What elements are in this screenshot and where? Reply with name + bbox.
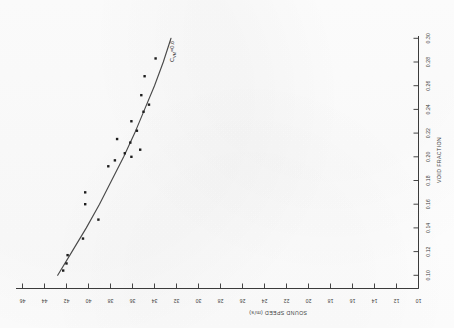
data-point (97, 218, 99, 220)
axes-group (16, 36, 419, 289)
sound-speed-tick-label: 12 (394, 298, 400, 304)
data-point (116, 138, 118, 140)
void-fraction-ticks (414, 38, 419, 275)
data-point (62, 269, 64, 271)
void-fraction-tick-label: 0.26 (425, 80, 431, 90)
data-point (114, 159, 116, 161)
data-point (84, 191, 86, 193)
sound-speed-tick-label: 30 (196, 298, 202, 304)
sound-speed-tick-label: 16 (350, 298, 356, 304)
sound-speed-tick-label: 14 (372, 298, 378, 304)
sound-speed-tick-label: 10 (416, 298, 422, 304)
data-point (84, 203, 86, 205)
sound-speed-tick-label: 32 (174, 298, 180, 304)
sound-speed-tick-label: 36 (130, 298, 136, 304)
sound-speed-tick-label: 40 (86, 298, 92, 304)
data-point (140, 94, 142, 96)
data-point (129, 141, 131, 143)
sound-speed-tick-label: 20 (306, 298, 312, 304)
figure-canvas: 46 44 42 40 38 36 34 32 30 28 26 24 22 2… (0, 0, 454, 328)
void-fraction-tick-label: 0.28 (425, 57, 431, 67)
data-point (148, 103, 150, 105)
data-point (136, 130, 138, 132)
void-fraction-tick-label: 0.24 (425, 104, 431, 114)
void-fraction-tick-label: 0.30 (425, 33, 431, 43)
void-fraction-tick-label: 0.22 (425, 128, 431, 138)
data-point (124, 152, 126, 154)
data-point (143, 75, 145, 77)
sound-speed-tick-label: 42 (64, 298, 70, 304)
curve-label-group: CVM=0.6 (169, 41, 177, 62)
curve-label: CVM=0.6 (169, 41, 177, 62)
void-fraction-tick-label: 0.16 (425, 199, 431, 209)
void-fraction-tick-label: 0.10 (425, 270, 431, 280)
chart-svg: 46 44 42 40 38 36 34 32 30 28 26 24 22 2… (0, 0, 454, 328)
curve-label-suffix: =0.6 (169, 41, 175, 52)
void-fraction-tick-labels: 0.10 0.12 0.14 0.16 0.18 0.20 0.22 0.24 … (425, 33, 431, 280)
sound-speed-tick-labels: 46 44 42 40 38 36 34 32 30 28 26 24 22 2… (20, 298, 422, 304)
void-fraction-axis-title: VOID FRACTION (436, 137, 442, 183)
sound-speed-tick-label: 24 (262, 298, 268, 304)
sound-speed-ticks (23, 284, 419, 289)
data-point (82, 237, 84, 239)
sound-speed-tick-label: 28 (218, 298, 224, 304)
data-point (107, 165, 109, 167)
void-fraction-tick-label: 0.12 (425, 246, 431, 256)
data-point (66, 254, 68, 256)
sound-speed-tick-label: 44 (42, 298, 48, 304)
data-point (130, 156, 132, 158)
model-curve (58, 38, 171, 275)
void-fraction-tick-label: 0.20 (425, 152, 431, 162)
data-point (130, 120, 132, 122)
data-points-group (62, 57, 157, 272)
data-point (139, 148, 141, 150)
sound-speed-tick-label: 18 (328, 298, 334, 304)
void-fraction-tick-label: 0.14 (425, 223, 431, 233)
sound-speed-tick-label: 38 (108, 298, 114, 304)
data-point (142, 111, 144, 113)
data-point (65, 262, 67, 264)
data-point (154, 57, 156, 59)
sound-speed-tick-label: 34 (152, 298, 158, 304)
sound-speed-tick-label: 46 (20, 298, 26, 304)
sound-speed-tick-label: 26 (240, 298, 246, 304)
sound-speed-tick-label: 22 (284, 298, 290, 304)
void-fraction-tick-label: 0.18 (425, 175, 431, 185)
sound-speed-axis-title: SOUND SPEED (m/s) (249, 310, 307, 316)
